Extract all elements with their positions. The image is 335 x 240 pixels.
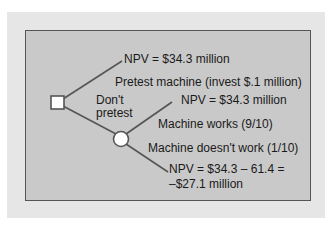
decision-node-square	[51, 96, 64, 109]
pretest-branch-label: Pretest machine (invest $.1 million)	[115, 75, 302, 90]
fails-branch-label: Machine doesn't work (1/10)	[148, 141, 298, 156]
works-outcome-label: NPV = $34.3 million	[181, 93, 287, 108]
works-branch-label: Machine works (9/10)	[158, 117, 273, 132]
fails-outcome-label-1: NPV = $34.3 – 61.4 =	[169, 162, 284, 177]
fails-outcome-label-2: –$27.1 million	[169, 177, 243, 192]
chance-node-circle	[114, 132, 129, 147]
dont-pretest-label-2: pretest	[96, 106, 133, 121]
pretest-outcome-label: NPV = $34.3 million	[124, 52, 230, 67]
